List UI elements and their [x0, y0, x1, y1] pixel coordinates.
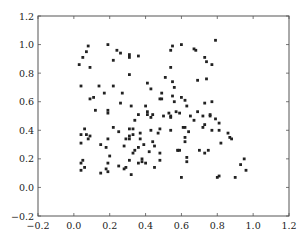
data-point [105, 168, 108, 171]
x-tick-label: 1.0 [246, 220, 261, 231]
data-point [157, 132, 160, 135]
data-point [144, 105, 147, 108]
data-point [148, 150, 151, 153]
data-point [146, 113, 149, 116]
data-point [184, 99, 187, 102]
data-point [171, 80, 174, 83]
data-point [146, 110, 149, 113]
data-point [85, 133, 88, 136]
data-point [185, 105, 188, 108]
data-point [180, 96, 183, 99]
data-point [175, 110, 178, 113]
x-tick-label: 0.0 [66, 220, 81, 231]
data-point [141, 158, 144, 161]
x-tick-label: 0.4 [138, 220, 153, 231]
data-point [205, 60, 208, 63]
data-point [207, 149, 210, 152]
data-point [185, 156, 188, 159]
data-point [89, 135, 92, 138]
data-point [128, 159, 131, 162]
y-tick-label: 0.0 [19, 182, 34, 193]
x-tick-label: 0.2 [102, 220, 117, 231]
data-point [128, 128, 131, 131]
data-point [128, 135, 131, 138]
data-point [169, 115, 172, 118]
data-point [125, 138, 128, 141]
data-point [178, 149, 181, 152]
data-point [107, 162, 110, 165]
data-point [184, 126, 187, 129]
data-point [119, 52, 122, 55]
data-point [117, 130, 120, 133]
data-point [150, 129, 153, 132]
data-point [92, 96, 95, 99]
data-point [117, 165, 120, 168]
data-point [130, 105, 133, 108]
x-tick-label: −0.2 [26, 220, 49, 231]
y-tick-label: 1.2 [19, 11, 34, 22]
data-point [189, 115, 192, 118]
y-tick-label: 0.8 [19, 68, 34, 79]
data-point [211, 129, 214, 132]
data-point [105, 146, 108, 149]
data-point [128, 73, 131, 76]
data-point [230, 138, 233, 141]
data-point [160, 92, 163, 95]
y-tick-label: 0.6 [19, 96, 34, 107]
data-point [94, 109, 97, 112]
data-point [99, 143, 102, 146]
y-tick-label: −0.2 [11, 211, 34, 222]
y-tick-label: 0.4 [19, 125, 34, 136]
data-point [80, 133, 83, 136]
data-point [234, 176, 237, 179]
data-point [108, 155, 111, 158]
data-point [139, 132, 142, 135]
data-point [218, 129, 221, 132]
data-point [119, 102, 122, 105]
data-point [150, 88, 153, 91]
x-tick-label: 0.6 [174, 220, 189, 231]
data-point [128, 56, 131, 59]
data-point [121, 92, 124, 95]
data-point [142, 143, 145, 146]
data-point [133, 119, 136, 122]
data-point [132, 133, 135, 136]
data-point [89, 66, 92, 69]
data-point [180, 43, 183, 46]
data-point [87, 138, 90, 141]
data-point [78, 63, 81, 66]
data-point [153, 145, 156, 148]
data-point [227, 132, 230, 135]
data-point [196, 79, 199, 82]
data-point [159, 128, 162, 131]
data-point [107, 138, 110, 141]
data-point [116, 49, 119, 52]
data-point [159, 152, 162, 155]
data-point [83, 166, 86, 169]
data-point [180, 176, 183, 179]
data-point [173, 86, 176, 89]
data-point [132, 152, 135, 155]
data-point [141, 160, 144, 163]
data-point [169, 129, 172, 132]
data-point [202, 115, 205, 118]
data-point [171, 95, 174, 98]
data-point [80, 85, 83, 88]
data-point [203, 102, 206, 105]
data-point [128, 53, 131, 56]
data-point [214, 118, 217, 121]
data-point [85, 50, 88, 53]
data-point [218, 122, 221, 125]
data-point [194, 49, 197, 52]
data-point [80, 142, 83, 145]
y-tick-label: 0.2 [19, 153, 34, 164]
data-point [112, 59, 115, 62]
data-point [196, 110, 199, 113]
data-point [107, 109, 110, 112]
data-point [184, 136, 187, 139]
data-point [132, 128, 135, 131]
x-tick-label: 0.8 [210, 220, 225, 231]
data-point [211, 100, 214, 103]
data-point [211, 63, 214, 66]
data-point [218, 175, 221, 178]
